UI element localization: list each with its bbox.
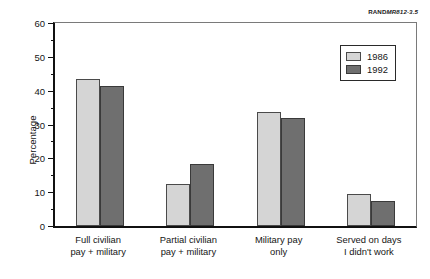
y-tick-minor xyxy=(51,40,56,41)
chart-legend: 1986 1992 xyxy=(340,45,396,81)
y-tick-minor xyxy=(51,175,56,176)
x-axis-label-group3: Military pay only xyxy=(234,234,324,257)
y-tick-label: 40 xyxy=(34,85,45,96)
y-tick-major xyxy=(48,192,55,193)
y-tick-label: 30 xyxy=(34,119,45,130)
bar-1992-group2 xyxy=(190,164,214,226)
y-tick-major xyxy=(48,23,55,24)
y-tick-minor xyxy=(51,209,56,210)
y-tick-major xyxy=(48,226,55,227)
y-tick-label: 0 xyxy=(40,221,45,232)
legend-item-1986: 1986 xyxy=(346,50,388,63)
y-tick-minor xyxy=(51,141,56,142)
rand-source-id: RANDMR812-3.5 xyxy=(368,8,418,15)
bar-chart-figure: RANDMR812-3.5 Percentage 0102030405060 1… xyxy=(0,0,430,279)
bar-1986-group2 xyxy=(166,184,190,226)
legend-swatch-1986-icon xyxy=(346,52,361,61)
legend-label-1992: 1992 xyxy=(367,64,388,75)
source-id-prefix: RAND xyxy=(368,8,386,15)
y-tick-minor xyxy=(51,108,56,109)
y-tick-label: 10 xyxy=(34,187,45,198)
bar-1992-group4 xyxy=(371,201,395,226)
bar-1986-group3 xyxy=(257,112,281,226)
x-axis-label-group4: Served on days I didn't work xyxy=(324,234,414,257)
x-axis-label-group1: Full civilian pay + military xyxy=(53,234,143,257)
bar-1986-group4 xyxy=(347,194,371,226)
y-tick-label: 60 xyxy=(34,18,45,29)
legend-item-1992: 1992 xyxy=(346,63,388,76)
source-id-suffix: MR812-3.5 xyxy=(386,8,418,15)
legend-label-1986: 1986 xyxy=(367,51,388,62)
bar-1986-group1 xyxy=(76,79,100,226)
y-tick-major xyxy=(48,57,55,58)
y-tick-minor xyxy=(51,74,56,75)
bar-1992-group3 xyxy=(281,118,305,226)
bar-1992-group1 xyxy=(100,86,124,226)
x-axis-label-group2: Partial civilian pay + military xyxy=(143,234,233,257)
y-tick-label: 20 xyxy=(34,153,45,164)
y-tick-major xyxy=(48,91,55,92)
y-tick-major xyxy=(48,125,55,126)
y-tick-major xyxy=(48,158,55,159)
y-tick-label: 50 xyxy=(34,51,45,62)
legend-swatch-1992-icon xyxy=(346,65,361,74)
